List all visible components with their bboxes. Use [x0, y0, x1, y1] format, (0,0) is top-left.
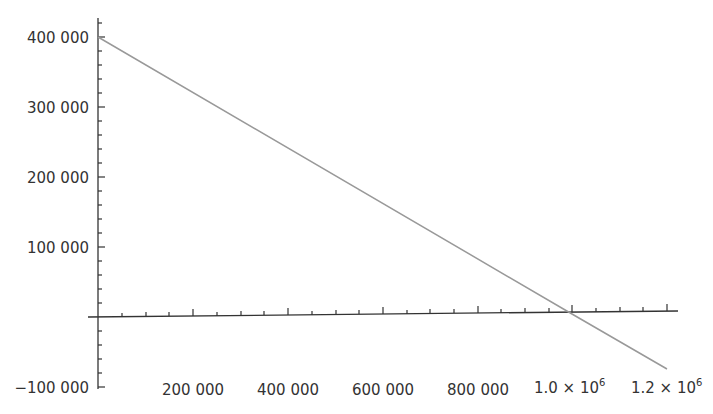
- x-tick-label: 600 000: [352, 381, 414, 399]
- y-tick-label: 100 000: [27, 239, 89, 257]
- y-tick-label: 400 000: [27, 29, 89, 47]
- x-tick-label: 800 000: [447, 381, 509, 399]
- x-ticks: [122, 304, 667, 317]
- y-tick-label: −100 000: [14, 379, 89, 397]
- data-line: [98, 37, 667, 369]
- x-tick-label: 1.2 × 106: [631, 377, 702, 397]
- line-chart: 400 000 300 000 200 000 100 000 −100 000…: [0, 0, 713, 414]
- x-tick-label: 200 000: [162, 381, 224, 399]
- y-tick-label: 300 000: [27, 99, 89, 117]
- x-tick-label: 1.0 × 106: [534, 377, 605, 397]
- y-ticks: [98, 23, 105, 387]
- y-tick-label: 200 000: [27, 169, 89, 187]
- x-tick-label: 400 000: [257, 381, 319, 399]
